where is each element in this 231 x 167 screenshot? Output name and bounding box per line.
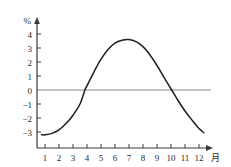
y-tick-label-3: 3 — [28, 44, 33, 54]
x-tick-label-11: 11 — [181, 153, 190, 163]
x-tick-label-5: 5 — [99, 153, 104, 163]
x-tick-label-6: 6 — [113, 153, 118, 163]
x-tick-label-3: 3 — [71, 153, 76, 163]
y-axis-unit-label: % — [24, 16, 32, 26]
x-tick-label-9: 9 — [155, 153, 160, 163]
x-tick-label-1: 1 — [43, 153, 48, 163]
y-tick-label-0: 0 — [28, 86, 33, 96]
x-tick-label-8: 8 — [141, 153, 146, 163]
x-tick-label-2: 2 — [57, 153, 62, 163]
y-tick-label-2: 2 — [28, 58, 33, 68]
x-tick-label-12: 12 — [195, 153, 204, 163]
line-chart: 4 3 2 1 0 −1 −2 −3 % 1 2 3 4 5 6 — [0, 0, 231, 167]
x-axis-unit-label: 月 — [211, 153, 220, 163]
chart-background — [0, 0, 231, 167]
x-tick-label-7: 7 — [127, 153, 132, 163]
y-tick-label-1: 1 — [28, 72, 33, 82]
chart-container: 4 3 2 1 0 −1 −2 −3 % 1 2 3 4 5 6 — [0, 0, 231, 167]
y-tick-label-4: 4 — [28, 30, 33, 40]
y-tick-label-neg1: −1 — [22, 100, 32, 110]
y-tick-label-neg2: −2 — [22, 114, 32, 124]
x-tick-label-4: 4 — [85, 153, 90, 163]
y-tick-label-neg3: −3 — [22, 128, 32, 138]
x-tick-label-10: 10 — [167, 153, 177, 163]
